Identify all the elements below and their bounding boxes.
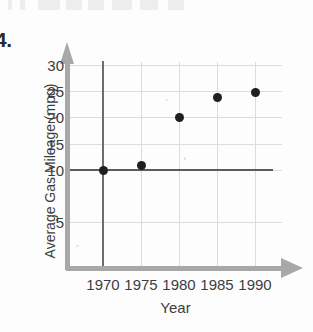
scatter-plot: 30 25 20 15 10 5 1970 1975 1980 1985 199… bbox=[0, 0, 313, 332]
data-point-1990 bbox=[251, 88, 260, 97]
data-point-1970 bbox=[99, 166, 108, 175]
scan-speckle bbox=[166, 99, 168, 101]
scan-speckle bbox=[76, 245, 79, 247]
scan-speckle bbox=[184, 157, 186, 160]
x-axis-arrow-icon bbox=[281, 258, 303, 278]
y-axis-line bbox=[65, 62, 70, 270]
figure-canvas: 4. 30 25 20 15 10 5 1970 1975 1980 bbox=[0, 0, 313, 332]
x-axis-line bbox=[66, 266, 283, 271]
data-point-1980 bbox=[175, 113, 184, 122]
gridline-vertical-1980 bbox=[179, 62, 180, 268]
x-tick-label-1990: 1990 bbox=[231, 276, 279, 293]
data-point-1975 bbox=[137, 161, 146, 170]
data-point-1985 bbox=[213, 93, 222, 102]
y-axis-title: Average Gas Mileage (mpg) bbox=[42, 61, 58, 281]
x-axis-title: Year bbox=[68, 299, 283, 316]
